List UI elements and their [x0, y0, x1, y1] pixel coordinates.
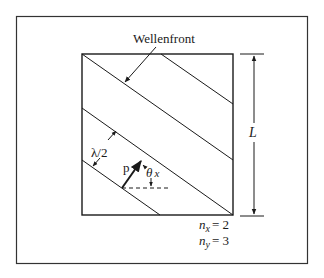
half-wavelength-label: λ/2: [91, 145, 107, 160]
ny-label: ny= 3: [199, 233, 229, 250]
momentum-label: p: [123, 160, 130, 175]
nx-value: = 2: [212, 217, 229, 232]
ny-subscript: y: [205, 239, 211, 250]
wavefront-line-1: [161, 54, 233, 104]
standing-wave-diagram: Wellenfront L λ/2 p θx nx= 2 ny= 3: [0, 0, 324, 278]
angle-arc-arrow-top: [143, 165, 145, 167]
angle-label: θx: [146, 165, 159, 180]
wavefront-line-3: [82, 108, 233, 215]
length-label: L: [248, 125, 257, 140]
nx-label: nx= 2: [199, 217, 229, 234]
wellenfront-pointer-arrow: [125, 47, 156, 82]
ny-value: = 3: [212, 233, 229, 248]
wellenfront-label: Wellenfront: [133, 31, 195, 46]
angle-symbol: θ: [146, 165, 153, 180]
wavefront-lines: [82, 54, 233, 215]
half-wavelength-arrow-upper: [108, 131, 116, 140]
box-square: [82, 54, 233, 215]
angle-subscript: x: [153, 167, 159, 179]
